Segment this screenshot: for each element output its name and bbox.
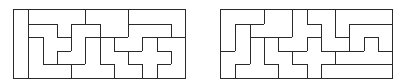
cell-V-pentomino	[235, 10, 249, 24]
cell-Z-pentomino	[85, 24, 99, 38]
cell-W-pentomino	[278, 51, 292, 65]
cell-I-pentomino	[14, 24, 28, 38]
cell-F-pentomino	[57, 37, 71, 51]
cell-W-pentomino	[278, 64, 292, 78]
cell-I-pentomino	[364, 64, 378, 78]
cell-W-pentomino	[264, 51, 278, 65]
cell-X-pentomino	[142, 51, 156, 65]
cell-V-pentomino	[221, 10, 235, 24]
cell-L-pentomino	[364, 10, 378, 24]
cell-Z-pentomino	[321, 24, 335, 38]
cell-Y-pentomino	[378, 51, 392, 65]
cell-U-pentomino	[157, 64, 171, 78]
cell-L-pentomino	[335, 24, 349, 38]
cell-F-pentomino	[292, 24, 306, 38]
cell-Z-pentomino	[57, 51, 71, 65]
cell-W-pentomino	[100, 37, 114, 51]
cell-W-pentomino	[100, 51, 114, 65]
cell-Z-pentomino	[335, 37, 349, 51]
cell-N-pentomino	[157, 24, 171, 38]
cell-T-pentomino	[71, 64, 85, 78]
cell-L-pentomino	[171, 10, 185, 24]
cell-L-pentomino	[171, 24, 185, 38]
cell-N-pentomino	[128, 24, 142, 38]
cell-I-pentomino	[321, 64, 335, 78]
cell-N-pentomino	[128, 37, 142, 51]
cell-P-pentomino	[114, 24, 128, 38]
cell-L-pentomino	[142, 10, 156, 24]
cell-X-pentomino	[307, 64, 321, 78]
cell-Z-pentomino	[307, 10, 321, 24]
cell-V-pentomino	[221, 24, 235, 38]
cell-L-pentomino	[128, 10, 142, 24]
cell-I-pentomino	[14, 51, 28, 65]
cell-W-pentomino	[292, 64, 306, 78]
cell-F-pentomino	[292, 10, 306, 24]
cell-U-pentomino	[378, 37, 392, 51]
cell-P-pentomino	[85, 10, 99, 24]
cell-P-pentomino	[100, 10, 114, 24]
cell-V-pentomino	[43, 64, 57, 78]
cell-N-pentomino	[235, 24, 249, 38]
cell-X-pentomino	[292, 51, 306, 65]
cell-F-pentomino	[28, 24, 42, 38]
cell-U-pentomino	[157, 37, 171, 51]
cell-Y-pentomino	[57, 10, 71, 24]
cell-P-pentomino	[264, 10, 278, 24]
cell-W-pentomino	[264, 37, 278, 51]
cell-Y-pentomino	[349, 51, 363, 65]
cell-P-pentomino	[250, 24, 264, 38]
cell-X-pentomino	[307, 51, 321, 65]
cell-N-pentomino	[114, 37, 128, 51]
cell-Y-pentomino	[71, 10, 85, 24]
cell-P-pentomino	[264, 24, 278, 38]
cell-X-pentomino	[307, 37, 321, 51]
cell-T-pentomino	[264, 64, 278, 78]
cell-X-pentomino	[157, 51, 171, 65]
cell-P-pentomino	[114, 10, 128, 24]
cell-X-pentomino	[142, 64, 156, 78]
pentomino-board-right	[220, 9, 393, 79]
cell-Y-pentomino	[364, 51, 378, 65]
cell-I-pentomino	[14, 64, 28, 78]
cell-P-pentomino	[278, 24, 292, 38]
cell-T-pentomino	[85, 64, 99, 78]
cell-V-pentomino	[221, 37, 235, 51]
cell-P-pentomino	[278, 10, 292, 24]
cell-Z-pentomino	[321, 10, 335, 24]
cell-L-pentomino	[378, 10, 392, 24]
cell-L-pentomino	[335, 10, 349, 24]
cell-F-pentomino	[278, 37, 292, 51]
cell-U-pentomino	[378, 24, 392, 38]
cell-N-pentomino	[221, 64, 235, 78]
cell-T-pentomino	[235, 64, 249, 78]
cell-N-pentomino	[235, 37, 249, 51]
cell-T-pentomino	[250, 51, 264, 65]
cell-V-pentomino	[28, 37, 42, 51]
cell-I-pentomino	[14, 37, 28, 51]
cell-V-pentomino	[28, 64, 42, 78]
cell-I-pentomino	[349, 64, 363, 78]
cell-Y-pentomino	[57, 24, 71, 38]
cell-F-pentomino	[292, 37, 306, 51]
cell-Z-pentomino	[71, 37, 85, 51]
cell-F-pentomino	[43, 37, 57, 51]
cell-T-pentomino	[100, 64, 114, 78]
cell-V-pentomino	[28, 51, 42, 65]
cell-Z-pentomino	[71, 24, 85, 38]
cell-N-pentomino	[142, 24, 156, 38]
cell-W-pentomino	[114, 64, 128, 78]
cell-T-pentomino	[250, 37, 264, 51]
cell-U-pentomino	[349, 24, 363, 38]
cell-I-pentomino	[335, 64, 349, 78]
cell-T-pentomino	[85, 51, 99, 65]
cell-U-pentomino	[171, 51, 185, 65]
cell-X-pentomino	[128, 51, 142, 65]
cell-L-pentomino	[349, 10, 363, 24]
cell-Y-pentomino	[335, 51, 349, 65]
cell-V-pentomino	[57, 64, 71, 78]
cell-U-pentomino	[171, 37, 185, 51]
cell-W-pentomino	[128, 64, 142, 78]
cell-I-pentomino	[14, 10, 28, 24]
cell-Y-pentomino	[28, 10, 42, 24]
